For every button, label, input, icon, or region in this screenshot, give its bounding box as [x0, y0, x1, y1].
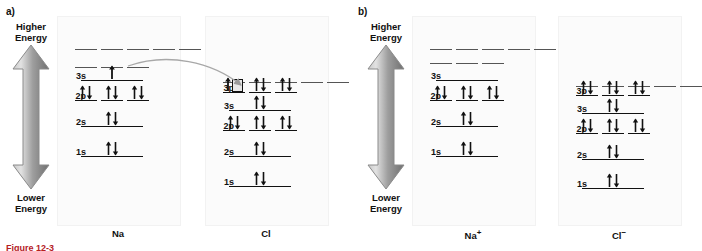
orbital-line	[436, 80, 498, 81]
electron-pair	[105, 141, 119, 156]
orbital-line	[81, 156, 143, 157]
orbital-line	[75, 49, 97, 50]
orbital-line	[456, 100, 478, 101]
electron-pair	[580, 80, 594, 95]
orbital-line	[680, 86, 702, 87]
orbital-line	[127, 100, 149, 101]
electron-pair	[580, 118, 594, 133]
electron-pair	[253, 171, 267, 186]
orbital-line	[327, 82, 349, 83]
electron-pair	[105, 85, 119, 100]
orbital-line	[482, 49, 504, 50]
electron-pair	[632, 118, 646, 133]
orbital-line	[75, 100, 97, 101]
orbital-line	[602, 133, 624, 134]
orbital-line	[582, 113, 644, 114]
electron-pair	[486, 85, 500, 100]
orbital-line	[101, 100, 123, 101]
electron-single	[224, 77, 232, 92]
orbital-line	[229, 156, 291, 157]
electron-pair	[253, 77, 267, 92]
electron-pair	[460, 141, 474, 156]
electron-pair	[606, 173, 620, 188]
orbital-line	[249, 92, 271, 93]
electron-pair	[606, 144, 620, 159]
orbital-line	[223, 130, 245, 131]
electron-pair	[279, 77, 293, 92]
electron-pair	[253, 115, 267, 130]
orbital-line	[654, 86, 676, 87]
orbital-line	[249, 130, 271, 131]
orbital-line	[75, 67, 97, 68]
electron-pair	[460, 111, 474, 126]
orbital-line	[602, 95, 624, 96]
orbital-line	[582, 188, 644, 189]
incoming-electron-slot	[232, 79, 243, 92]
orbital-line	[456, 63, 478, 64]
electron-pair	[606, 80, 620, 95]
orbital-line	[456, 49, 478, 50]
orbital-line	[430, 63, 452, 64]
orbital-line	[153, 49, 175, 50]
electron-pair	[606, 118, 620, 133]
orbital-line	[436, 126, 498, 127]
orbital-line	[628, 133, 650, 134]
orbital-line	[576, 95, 598, 96]
orbital-line	[576, 133, 598, 134]
orbital-line	[275, 130, 297, 131]
orbital-line	[223, 92, 245, 93]
orbital-line	[534, 49, 556, 50]
orbital-line	[81, 126, 143, 127]
electron-pair	[606, 98, 620, 113]
figure-caption: Figure 12-3	[6, 243, 156, 251]
orbital-line	[430, 49, 452, 50]
orbital-line	[275, 92, 297, 93]
orbital-line	[582, 159, 644, 160]
electron-pair	[279, 115, 293, 130]
orbital-line	[508, 49, 530, 50]
electron-pair	[131, 85, 145, 100]
orbital-line	[179, 49, 201, 50]
orbital-line	[628, 95, 650, 96]
orbital-line	[229, 110, 291, 111]
orbital-line	[436, 156, 498, 157]
orbital-line	[127, 67, 149, 68]
electron-pair	[79, 85, 93, 100]
electron-pair	[253, 95, 267, 110]
electron-pair	[105, 111, 119, 126]
electron-pair	[632, 80, 646, 95]
orbital-line	[101, 49, 123, 50]
orbital-line	[229, 186, 291, 187]
orbital-line	[482, 63, 504, 64]
orbital-line	[482, 100, 504, 101]
orbital-line	[81, 80, 143, 81]
orbital-line	[430, 100, 452, 101]
electron-pair	[460, 85, 474, 100]
orbital-line	[127, 49, 149, 50]
electron-single	[108, 65, 116, 80]
orbital-line	[301, 82, 323, 83]
electron-pair	[253, 141, 267, 156]
electron-pair	[434, 85, 448, 100]
electron-pair	[227, 115, 241, 130]
